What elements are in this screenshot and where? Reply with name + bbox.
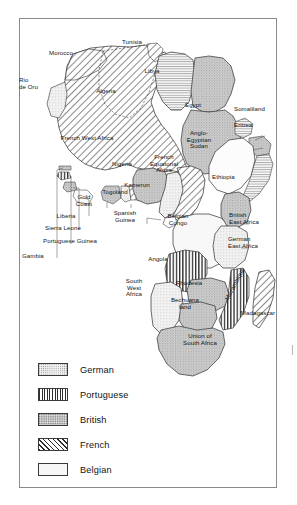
legend-row-belgian: Belgian (38, 457, 228, 482)
legend-label-portuguese: Portuguese (80, 390, 129, 400)
legend-swatch-belgian-icon (38, 463, 68, 476)
legend-label-belgian: Belgian (80, 465, 112, 475)
page-edge-tick (292, 345, 293, 355)
legend-row-portuguese: Portuguese (38, 382, 228, 407)
legend-label-british: British (80, 415, 107, 425)
legend-label-french: French (80, 440, 110, 450)
legend-row-british: British (38, 407, 228, 432)
colonial-power-legend: German Portuguese British French Belgian (38, 357, 228, 482)
colonial-africa-figure: Morocco Tunisia Rio de Oro Algeria Libya… (0, 0, 297, 505)
region-eritrea (235, 118, 253, 138)
legend-swatch-german-icon (38, 363, 68, 376)
legend-row-german: German (38, 357, 228, 382)
region-madagascar (253, 270, 275, 328)
region-british-east-africa (221, 192, 251, 228)
region-german-east-africa (213, 226, 249, 268)
legend-row-french: French (38, 432, 228, 457)
figure-bottom-rule (20, 487, 276, 488)
region-egypt (191, 56, 235, 112)
legend-swatch-french-icon (38, 438, 68, 451)
legend-swatch-portuguese-icon (38, 388, 68, 401)
region-gambia (59, 166, 71, 170)
region-gold-coast (101, 186, 121, 204)
region-libya (155, 52, 195, 110)
legend-swatch-british-icon (38, 413, 68, 426)
legend-label-german: German (80, 365, 114, 375)
region-liberia (73, 190, 93, 204)
